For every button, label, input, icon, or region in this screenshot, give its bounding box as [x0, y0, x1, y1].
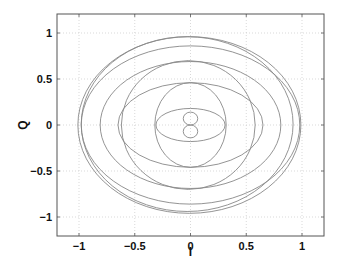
- iq-constellation-chart: −1−0.500.51 −1−0.500.51 I Q: [0, 0, 343, 274]
- x-tick-label: −0.5: [124, 240, 146, 252]
- curve-circle: [183, 112, 197, 125]
- x-axis-label: I: [189, 245, 192, 259]
- y-tick-labels: −1−0.500.51: [30, 27, 52, 223]
- x-tick-label: 0.5: [239, 240, 254, 252]
- y-tick-label: −1: [39, 211, 52, 223]
- x-tick-label: 1: [299, 240, 305, 252]
- y-tick-label: 1: [46, 27, 52, 39]
- y-tick-label: 0.5: [37, 73, 52, 85]
- y-axis-label: Q: [16, 120, 30, 129]
- x-tick-label: −1: [73, 240, 86, 252]
- y-tick-label: −0.5: [30, 165, 52, 177]
- y-tick-label: 0: [46, 119, 52, 131]
